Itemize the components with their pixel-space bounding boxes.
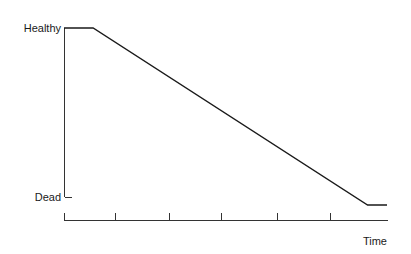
y-label-healthy: Healthy — [24, 22, 62, 34]
y-label-dead: Dead — [35, 191, 61, 203]
x-axis-label-time: Time — [363, 235, 387, 247]
x-axis-ticks — [65, 213, 331, 221]
health-over-time-chart: Healthy Dead Time — [0, 0, 411, 254]
health-decline-line — [64, 28, 387, 205]
